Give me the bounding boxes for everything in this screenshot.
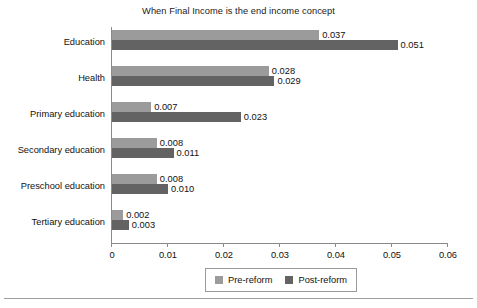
bar-value-label: 0.037 bbox=[322, 29, 345, 41]
bar-group-health: Health 0.028 0.029 bbox=[112, 63, 448, 99]
bar-pre-reform: 0.028 bbox=[112, 66, 269, 76]
x-tick-mark bbox=[111, 243, 112, 247]
bar-group-tertiary-education: Tertiary education 0.002 0.003 bbox=[112, 207, 448, 243]
bar-group-education: Education 0.037 0.051 bbox=[112, 27, 448, 63]
bar-value-label: 0.003 bbox=[132, 219, 155, 231]
legend-label: Post-reform bbox=[298, 275, 347, 285]
bar-post-reform: 0.029 bbox=[112, 76, 274, 86]
category-label: Tertiary education bbox=[32, 216, 105, 228]
x-tick-label: 0.05 bbox=[383, 250, 401, 260]
bar-value-label: 0.051 bbox=[401, 39, 424, 51]
x-tick-mark bbox=[279, 243, 280, 247]
bar-chart-figure: When Final Income is the end income conc… bbox=[0, 0, 477, 308]
chart-legend: Pre-reform Post-reform bbox=[205, 268, 357, 292]
x-tick-mark bbox=[223, 243, 224, 247]
bar-post-reform: 0.010 bbox=[112, 184, 168, 194]
legend-item-post-reform: Post-reform bbox=[285, 275, 347, 285]
x-tick-mark bbox=[391, 243, 392, 247]
x-tick-label: 0.01 bbox=[159, 250, 177, 260]
bar-post-reform: 0.011 bbox=[112, 148, 174, 158]
chart-title: When Final Income is the end income conc… bbox=[0, 6, 477, 16]
plot-area: Education 0.037 0.051 Health 0.028 0.029… bbox=[112, 27, 448, 243]
x-tick-label: 0.02 bbox=[215, 250, 233, 260]
x-tick-label: 0.03 bbox=[271, 250, 289, 260]
x-tick-mark bbox=[447, 243, 448, 247]
bar-pre-reform: 0.008 bbox=[112, 138, 157, 148]
bar-group-primary-education: Primary education 0.007 0.023 bbox=[112, 99, 448, 135]
bar-post-reform: 0.023 bbox=[112, 112, 241, 122]
category-label: Health bbox=[78, 72, 105, 84]
category-label: Preschool education bbox=[21, 180, 105, 192]
x-tick-label: 0.06 bbox=[439, 250, 457, 260]
bar-value-label: 0.023 bbox=[244, 111, 267, 123]
legend-swatch-icon bbox=[285, 276, 293, 284]
bar-value-label: 0.007 bbox=[154, 101, 177, 113]
bar-pre-reform: 0.007 bbox=[112, 102, 151, 112]
bar-value-label: 0.029 bbox=[277, 75, 300, 87]
legend-swatch-icon bbox=[215, 276, 223, 284]
category-label: Primary education bbox=[30, 108, 105, 120]
x-tick-label: 0.04 bbox=[327, 250, 345, 260]
bar-pre-reform: 0.002 bbox=[112, 210, 123, 220]
x-tick-mark bbox=[335, 243, 336, 247]
bar-group-preschool-education: Preschool education 0.008 0.010 bbox=[112, 171, 448, 207]
bar-post-reform: 0.051 bbox=[112, 40, 398, 50]
bar-value-label: 0.011 bbox=[177, 147, 200, 159]
x-tick-mark bbox=[167, 243, 168, 247]
bar-pre-reform: 0.037 bbox=[112, 30, 319, 40]
bar-pre-reform: 0.008 bbox=[112, 174, 157, 184]
bar-group-secondary-education: Secondary education 0.008 0.011 bbox=[112, 135, 448, 171]
bar-post-reform: 0.003 bbox=[112, 220, 129, 230]
category-label: Education bbox=[64, 36, 105, 48]
footer-divider bbox=[4, 298, 473, 299]
bar-value-label: 0.010 bbox=[171, 183, 194, 195]
legend-item-pre-reform: Pre-reform bbox=[215, 275, 272, 285]
category-label: Secondary education bbox=[18, 144, 105, 156]
legend-label: Pre-reform bbox=[228, 275, 272, 285]
x-tick-label: 0 bbox=[109, 250, 114, 260]
